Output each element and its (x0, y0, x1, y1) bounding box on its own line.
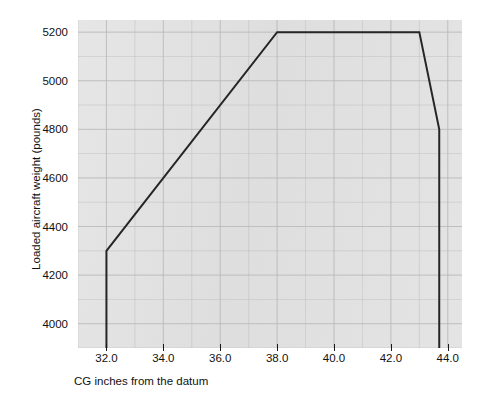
x-axis-tick-label: 42.0 (366, 352, 416, 365)
x-axis-tick-label: 44.0 (423, 352, 473, 365)
x-axis-tick-mark (277, 344, 278, 351)
x-axis-tick-label: 32.0 (81, 352, 131, 365)
x-axis-tick-label: 34.0 (138, 352, 188, 365)
x-axis-tick-mark (391, 344, 392, 351)
x-axis-tick-label: 36.0 (195, 352, 245, 365)
cg-envelope-chart: 5200500048004600440042004000 32.034.036.… (0, 0, 482, 404)
x-axis-tick-mark (220, 344, 221, 351)
x-axis-tick-mark (448, 344, 449, 351)
x-axis-tick-label: 40.0 (309, 352, 359, 365)
x-axis-title: CG inches from the datum (74, 374, 208, 388)
y-axis-title: Loaded aircraft weight (pounds) (29, 79, 43, 299)
x-axis-tick-mark (106, 344, 107, 351)
x-axis-labels: 32.034.036.038.040.042.044.0 (0, 0, 482, 404)
x-axis-tick-mark (334, 344, 335, 351)
x-axis-tick-label: 38.0 (252, 352, 302, 365)
x-axis-tick-mark (163, 344, 164, 351)
